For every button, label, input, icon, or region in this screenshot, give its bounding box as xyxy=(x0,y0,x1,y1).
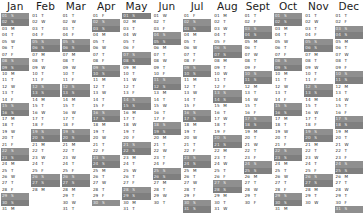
month-columns-grid: 01S02S03M04T05W06T07F08S09S10M11T12W13T1… xyxy=(0,13,364,214)
day-cell[interactable]: 31M xyxy=(274,206,302,212)
month-header-jan: Jan xyxy=(0,0,30,13)
day-weekday-letter: S xyxy=(345,206,348,212)
day-number: 31 xyxy=(275,206,283,212)
month-column-apr: 01F02S03S04M05T06W07T08F09S10S11M12T13W1… xyxy=(91,13,121,206)
month-header-may: May xyxy=(121,0,151,13)
day-weekday-letter: T xyxy=(72,206,75,212)
day-number: 31 xyxy=(336,206,344,212)
day-cell[interactable]: 31S xyxy=(183,206,211,212)
day-weekday-letter: F xyxy=(254,200,256,206)
day-number: 28 xyxy=(32,187,40,193)
year-planner-calendar: JanFebMarAprMayJunJulAugSeptOctNovDec 01… xyxy=(0,0,364,214)
day-weekday-letter: W xyxy=(314,200,318,206)
day-number: 31 xyxy=(214,206,222,212)
day-cell[interactable]: 30T xyxy=(153,200,181,206)
month-header-row: JanFebMarAprMayJunJulAugSeptOctNovDec xyxy=(0,0,364,13)
day-number: 30 xyxy=(93,200,101,206)
day-cell[interactable]: 31S xyxy=(335,206,363,212)
month-column-mar: 01T02W03T04F05S06S07M08T09W10T11F12S13S1… xyxy=(61,13,91,213)
day-weekday-letter: T xyxy=(132,206,135,212)
month-column-sept: 01T02F03S04S05M06T07W08T09F10S11S12M13T1… xyxy=(243,13,273,206)
month-header-nov: Nov xyxy=(303,0,333,13)
month-column-jun: 01W02T03F04S05S06M07T08W09T10F11S12S13M1… xyxy=(152,13,182,206)
month-header-feb: Feb xyxy=(30,0,60,13)
month-column-may: 01S02M03T04W05T06F07S08S09M10T11W12T13F1… xyxy=(121,13,151,213)
day-cell[interactable]: 30W xyxy=(304,200,332,206)
day-number: 31 xyxy=(123,206,131,212)
month-column-nov: 01T02W03T04F05S06S07M08T09W10T11F12S13S1… xyxy=(303,13,333,206)
day-weekday-letter: M xyxy=(284,206,288,212)
day-cell[interactable]: 30S xyxy=(92,200,120,206)
day-number: 30 xyxy=(245,200,253,206)
month-header-apr: Apr xyxy=(91,0,121,13)
day-number: 31 xyxy=(63,206,71,212)
month-header-dec: Dec xyxy=(334,0,364,13)
month-column-oct: 01S02S03M04T05W06T07F08S09S10M11T12W13T1… xyxy=(273,13,303,213)
month-header-jun: Jun xyxy=(152,0,182,13)
day-cell[interactable]: 31T xyxy=(122,206,150,212)
day-weekday-letter: M xyxy=(11,206,15,212)
day-cell[interactable]: 30F xyxy=(244,200,272,206)
month-header-sept: Sept xyxy=(243,0,273,13)
day-weekday-letter: W xyxy=(223,206,227,212)
month-column-feb: 01T02W03T04F05S06S07M08T09W10T11F12S13S1… xyxy=(30,13,60,193)
day-number: 31 xyxy=(184,206,192,212)
day-cell[interactable]: 28M xyxy=(31,187,59,193)
month-column-dec: 01T02F03S04S05M06T07W08T09F10S11S12M13T1… xyxy=(334,13,364,213)
day-weekday-letter: M xyxy=(41,187,45,193)
day-weekday-letter: S xyxy=(102,200,105,206)
day-number: 31 xyxy=(2,206,10,212)
month-header-mar: Mar xyxy=(61,0,91,13)
month-column-jan: 01S02S03M04T05W06T07F08S09S10M11T12W13T1… xyxy=(0,13,30,213)
month-header-oct: Oct xyxy=(273,0,303,13)
month-column-aug: 01M02T03W04T05F06S07S08M09T10W11T12F13S1… xyxy=(212,13,242,213)
day-number: 30 xyxy=(305,200,313,206)
day-number: 30 xyxy=(154,200,162,206)
day-cell[interactable]: 31T xyxy=(62,206,90,212)
month-header-jul: Jul xyxy=(182,0,212,13)
day-cell[interactable]: 31W xyxy=(213,206,241,212)
day-weekday-letter: T xyxy=(163,200,166,206)
day-weekday-letter: S xyxy=(193,206,196,212)
month-header-aug: Aug xyxy=(212,0,242,13)
day-cell[interactable]: 31M xyxy=(1,206,29,212)
month-column-jul: 01F02S03S04M05T06W07T08F09S10S11M12T13W1… xyxy=(182,13,212,213)
